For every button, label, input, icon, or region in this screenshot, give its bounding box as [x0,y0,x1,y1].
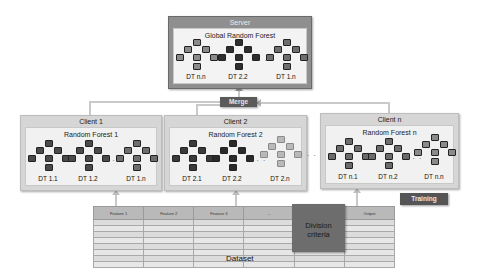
decision-tree-icon [28,140,68,174]
tree-node [133,164,141,171]
decision-tree-icon [260,136,300,170]
connector-client1-merge-v [89,101,91,115]
tree-node [283,39,291,46]
tree-node [193,39,201,46]
tree-node [198,147,206,154]
decision-tree-icon [368,138,408,172]
tree-node [376,145,384,152]
client-title: Client 2 [165,116,306,127]
tree-node [133,140,141,147]
tree-label: DT 2.n [260,175,300,182]
tree-node [286,143,294,150]
tree-node [193,54,201,61]
tree-node [68,155,76,162]
decision-tree-icon [176,39,216,73]
dataset-label: Dataset [226,254,254,263]
tree-node [85,164,93,171]
tree-node [193,63,201,70]
decision-tree-icon [414,134,454,168]
training-step-label: Training [400,193,448,205]
tree-node [229,140,237,147]
decision-tree-icon [266,39,306,73]
connector-client2-merge-h [196,104,220,106]
tree-node [244,46,252,53]
dataset-cell [344,262,394,268]
tree-label: DT n.n [414,173,454,180]
decision-tree-icon [328,138,368,172]
tree-node [385,138,393,145]
tree-node [202,46,210,53]
tree-node [345,153,353,160]
tree-node [260,151,268,158]
tree-node [54,147,62,154]
tree-node [385,162,393,169]
tree-node [210,54,218,61]
global-forest-title: Global Random Forest [174,32,306,39]
tree-node [422,141,430,148]
tree-node [448,149,456,156]
random-forest-box: Random Forest 1 . . . DT 1.1 DT 1.2 DT 1… [25,127,157,186]
server-panel: Server Global Random Forest . . . DT n.n… [168,16,312,89]
tree-node [294,151,302,158]
tree-node [85,155,93,162]
decision-tree-icon [212,140,252,174]
tree-node [116,155,124,162]
client-panel-n: Client n Random Forest n . . . DT n.1 DT… [320,113,459,189]
division-label-line1: Division [292,221,345,230]
client-title: Client n [321,114,458,125]
tree-node [218,54,226,61]
tree-node [277,151,285,158]
tree-node [94,147,102,154]
tree-node [274,46,282,53]
tree-node [220,147,228,154]
tree-node [394,145,402,152]
tree-node [235,63,243,70]
tree-node [235,54,243,61]
tree-node [431,134,439,141]
tree-node [336,145,344,152]
tree-node [189,164,197,171]
column-header: Output [344,207,394,220]
connector-client1-merge-h [89,101,220,103]
tree-node [283,63,291,70]
decision-tree-icon [116,140,156,174]
random-forest-box: Random Forest n . . . DT n.1 DT n.2 DT n… [325,125,454,184]
client-panel-2: Client 2 Random Forest 2 . . . DT 2.1 DT… [164,115,307,191]
tree-node [268,143,276,150]
dataset-cell [144,262,194,268]
tree-node [45,155,53,162]
tree-node [28,155,36,162]
tree-node [414,149,422,156]
division-criteria-block: Division criteria [292,204,345,252]
tree-node [150,155,158,162]
decision-tree-icon [218,39,258,73]
tree-node [142,147,150,154]
tree-node [189,155,197,162]
tree-node [45,164,53,171]
tree-node [76,147,84,154]
tree-label: DT n.1 [328,173,368,180]
tree-node [172,155,180,162]
tree-node [300,54,308,61]
tree-node [189,140,197,147]
tree-node [176,54,184,61]
tree-node [292,46,300,53]
tree-node [184,46,192,53]
tree-node [36,147,44,154]
server-title: Server [169,17,311,28]
decision-tree-icon [68,140,108,174]
merge-step-label: Merge [220,97,257,107]
tree-label: DT 1.2 [68,175,108,182]
tree-node [238,147,246,154]
tree-node [133,155,141,162]
tree-label: DT 2.2 [212,175,252,182]
tree-node [440,141,448,148]
tree-node [431,149,439,156]
tree-node [345,138,353,145]
tree-node [283,54,291,61]
random-forest-box: Random Forest 2 . . . DT 2.1 DT 2.2 DT 2… [169,127,302,186]
column-header: Feature 1 [94,207,144,220]
tree-node [226,46,234,53]
tree-node [345,162,353,169]
tree-label: DT n.n [176,73,216,80]
